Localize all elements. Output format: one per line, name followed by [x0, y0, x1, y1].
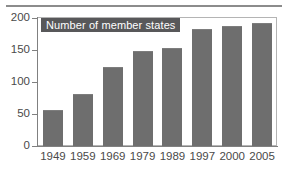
- top-divider-rule: [6, 5, 282, 7]
- bar: [133, 51, 153, 146]
- y-axis-tick: [32, 82, 37, 83]
- y-axis-tick-label: 150: [0, 43, 30, 55]
- x-axis-tick-label: 2005: [242, 150, 282, 162]
- bar-chart-figure: 050100150200 194919591969197919891997200…: [0, 0, 288, 171]
- y-axis-tick: [32, 50, 37, 51]
- y-axis-tick-label: 100: [0, 75, 30, 87]
- y-axis-tick: [32, 18, 37, 19]
- y-axis-tick-label: 200: [0, 11, 30, 23]
- y-axis-tick: [32, 146, 37, 147]
- bar: [162, 48, 182, 146]
- y-axis-tick-label: 50: [0, 107, 30, 119]
- plot-area: [38, 18, 277, 146]
- x-axis-line: [37, 146, 278, 147]
- bar: [43, 110, 63, 146]
- chart-legend-title: Number of member states: [41, 18, 180, 32]
- y-axis-tick: [32, 114, 37, 115]
- bar: [103, 67, 123, 146]
- bar: [73, 94, 93, 146]
- bar: [252, 23, 272, 146]
- bar: [192, 29, 212, 146]
- y-axis-tick-label: 0: [0, 139, 30, 151]
- bar: [222, 26, 242, 146]
